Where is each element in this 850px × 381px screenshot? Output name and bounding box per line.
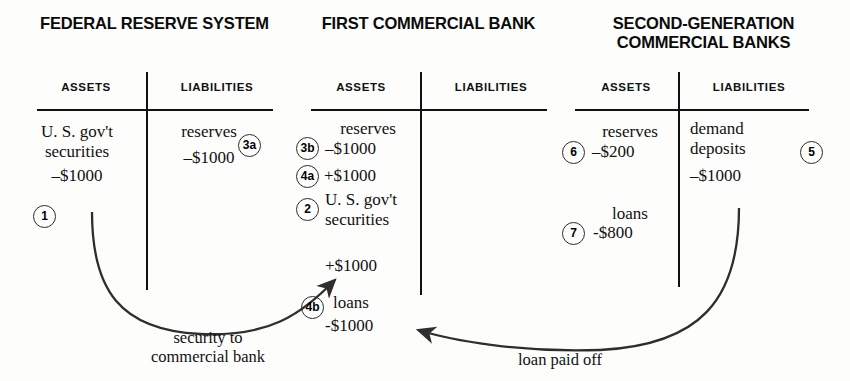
account-1-asset-amount-3: -$1000 xyxy=(325,316,415,336)
step-marker-3a: 3a xyxy=(238,134,261,157)
account-2-asset-amount-1: -$800 xyxy=(593,223,683,243)
step-marker-2: 2 xyxy=(296,198,319,221)
account-title-second-generation-banks: SECOND-GENERATION COMMERCIAL BANKS xyxy=(566,14,841,52)
account-2-asset-label-0: reserves xyxy=(584,122,676,142)
step-marker-4a: 4a xyxy=(296,165,319,188)
t-account-flow-diagram: FEDERAL RESERVE SYSTEM ASSETS LIABILITIE… xyxy=(0,0,850,381)
account-0-asset-amount-0: –$1000 xyxy=(18,166,136,186)
step-marker-7: 7 xyxy=(562,222,585,245)
account-1-asset-label-3: loans xyxy=(333,293,423,313)
account-2-liability-label-0: demand deposits xyxy=(690,119,800,158)
account-1-asset-label-2: U. S. gov't securities xyxy=(325,190,435,229)
step-marker-1: 1 xyxy=(33,205,56,228)
account-1-hrule xyxy=(311,109,547,111)
account-0-asset-label-0: U. S. gov't securities xyxy=(18,122,136,161)
step-marker-5: 5 xyxy=(800,141,823,164)
account-2-asset-amount-0: –$200 xyxy=(592,142,682,162)
account-title-first-commercial-bank: FIRST COMMERCIAL BANK xyxy=(296,14,561,33)
step-marker-6: 6 xyxy=(562,141,585,164)
account-2-liabilities-header: LIABILITIES xyxy=(686,81,812,93)
step-marker-4b: 4b xyxy=(301,296,324,319)
account-2-assets-header: ASSETS xyxy=(570,81,682,93)
account-0-vrule xyxy=(146,72,148,290)
account-1-asset-amount-2: +$1000 xyxy=(325,256,425,276)
caption-loan-paid-off: loan paid off xyxy=(470,350,650,369)
account-title-federal-reserve: FEDERAL RESERVE SYSTEM xyxy=(22,14,287,33)
account-1-asset-amount-0: –$1000 xyxy=(325,139,425,159)
account-2-hrule xyxy=(575,109,809,111)
account-1-liabilities-header: LIABILITIES xyxy=(428,81,554,93)
account-0-hrule xyxy=(37,109,273,111)
step-marker-3b: 3b xyxy=(296,137,319,160)
account-0-liabilities-header: LIABILITIES xyxy=(154,81,280,93)
security-to-commercial-bank-arrow xyxy=(92,212,335,334)
caption-security-to-commercial-bank: security to commercial bank xyxy=(118,328,298,366)
account-1-assets-header: ASSETS xyxy=(305,81,417,93)
account-2-asset-label-1: loans xyxy=(584,204,676,224)
account-1-asset-label-0: reserves xyxy=(318,119,418,139)
account-0-assets-header: ASSETS xyxy=(30,81,142,93)
account-1-asset-amount-1: +$1000 xyxy=(324,166,424,186)
account-2-liability-amount-0: –$1000 xyxy=(690,166,800,186)
account-2-vrule xyxy=(678,72,680,287)
